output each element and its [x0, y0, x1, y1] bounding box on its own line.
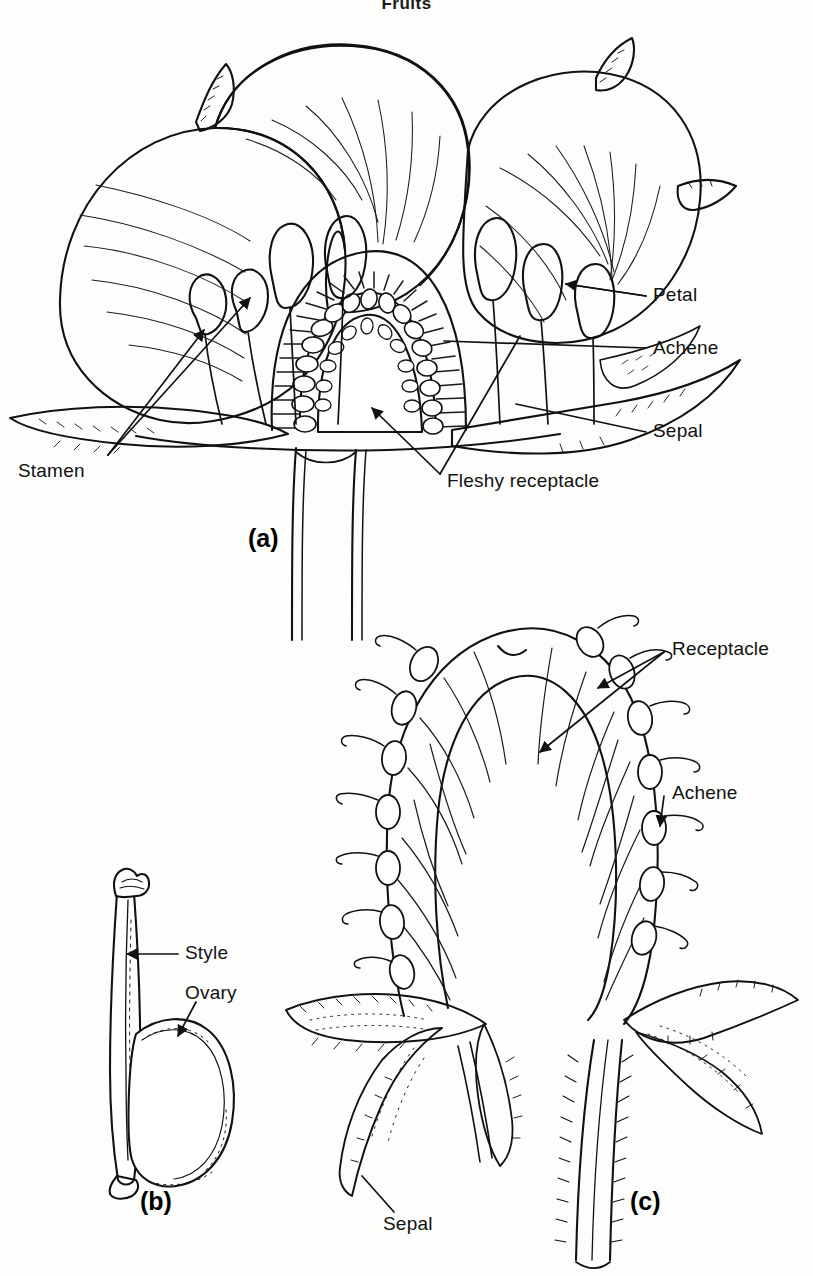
pedicel-a-right — [352, 450, 356, 640]
leader-sepal-c — [362, 1176, 394, 1212]
stamen-group-right — [475, 218, 614, 424]
leader-petal-2 — [566, 284, 646, 296]
panel-c-drawing — [286, 616, 798, 1269]
calyx-left-lower-hairs — [351, 1077, 392, 1162]
label-achene-a: Achene — [653, 337, 719, 359]
calyx-left-upper-texture — [310, 1014, 430, 1030]
label-sepal-c: Sepal — [383, 1213, 433, 1235]
calyx-right-upper-hairs — [668, 980, 773, 1044]
pedicel-a-left2 — [302, 450, 306, 640]
label-sepal-a: Sepal — [653, 420, 703, 442]
peduncle-c-bridge — [576, 1262, 610, 1268]
calyx-left-upper-hairs — [300, 996, 432, 1051]
fruit-outer-outline — [387, 629, 658, 1024]
peduncle-c-mid — [592, 1040, 608, 1260]
figure-page: Fruits — [0, 0, 813, 1276]
sepal-tip-upper-right — [596, 38, 634, 90]
panel-id-b: (b) — [140, 1187, 172, 1216]
label-petal-a: Petal — [653, 284, 697, 306]
petal-right-veins — [480, 146, 660, 322]
fruit-inner-contour — [435, 676, 616, 1020]
petal-middle-veins — [246, 98, 440, 244]
fruit-achenes-left — [376, 642, 444, 991]
pedicel-a-right2 — [362, 450, 366, 640]
peduncle-c-right — [610, 1040, 622, 1260]
calyx-sepal-left-lower — [340, 1028, 442, 1196]
label-achene-c: Achene — [672, 782, 738, 804]
panel-id-a: (a) — [248, 524, 279, 553]
ovary-body — [129, 1019, 234, 1186]
fruit-veins-right — [538, 648, 646, 1000]
label-fleshy-receptacle-a: Fleshy receptacle — [447, 470, 599, 492]
flower-base-line — [136, 434, 560, 450]
calyx-sepal-right-lower — [636, 1032, 762, 1134]
sepal-tip-right — [678, 180, 736, 210]
label-style-b: Style — [185, 942, 228, 964]
petal-middle — [215, 46, 469, 313]
petal-left-veins — [80, 185, 250, 381]
petal-middle-outline2 — [215, 44, 470, 285]
fruit-pith-notch — [498, 646, 526, 655]
label-stamen-a: Stamen — [18, 460, 85, 482]
peduncle-c-left — [576, 1040, 594, 1260]
pedicel-a-left — [292, 448, 296, 640]
panel-b-drawing — [109, 869, 233, 1199]
panel-a-drawing — [10, 38, 740, 640]
label-receptacle-c: Receptacle — [672, 638, 769, 660]
stigma-head — [114, 869, 149, 897]
panel-id-c: (c) — [630, 1187, 661, 1216]
pedicel-c-stub-left — [470, 1042, 492, 1158]
label-ovary-b: Ovary — [185, 982, 237, 1004]
calyx-sepal-left-upper — [286, 994, 486, 1042]
leader-stamen-2 — [108, 298, 250, 455]
bracteole-texture — [622, 352, 656, 374]
